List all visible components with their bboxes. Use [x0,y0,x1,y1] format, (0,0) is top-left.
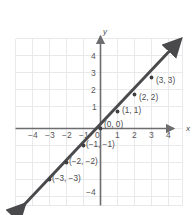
y-axis-label: y [103,27,107,36]
y-tick-neg4: −4 [86,188,96,197]
data-point [133,93,137,97]
x-tick-1: 1 [115,131,120,140]
y-tick-3: 3 [91,69,96,78]
point-label-neg1: (−1, −1) [86,140,115,149]
x-tick-3: 3 [149,131,154,140]
data-point [82,144,86,148]
x-tick-neg2: −2 [62,131,72,140]
x-tick-zero: 0 [95,131,100,140]
point-label-0-0: (0, 0) [104,120,123,129]
point-label-3-3: (3, 3) [156,76,175,85]
y-tick-1: 1 [92,103,97,112]
point-label-neg2: (−2, −2) [69,157,98,166]
coordinate-plane [0,0,196,215]
graph-figure: x y −4 −3 −2 −1 0 1 2 3 4 4 3 2 1 −4 (3,… [0,0,196,215]
point-label-neg3: (−3, −3) [52,174,81,183]
axes [16,36,175,206]
x-tick-neg4: −4 [28,131,38,140]
point-label-1-1: (1, 1) [122,106,141,115]
x-tick-neg3: −3 [45,131,55,140]
x-tick-neg1: −1 [79,131,89,140]
x-axis-label: x [186,124,190,133]
y-tick-2: 2 [91,86,96,95]
data-point [116,110,120,114]
x-tick-2: 2 [132,131,137,140]
x-tick-4: 4 [166,131,171,140]
data-point [48,178,52,182]
data-point [150,76,154,80]
data-point [65,161,69,165]
y-tick-4: 4 [91,52,96,61]
point-label-2-2: (2, 2) [139,93,158,102]
